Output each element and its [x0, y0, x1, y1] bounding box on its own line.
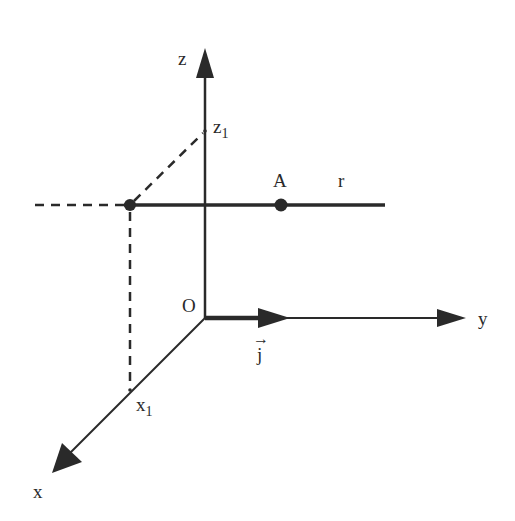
- dashed-line-to-z1: [134, 133, 203, 201]
- line-r-label: r: [338, 170, 345, 191]
- x-axis: [52, 318, 205, 473]
- y-axis-label: y: [478, 308, 488, 329]
- point-a-label: A: [273, 170, 287, 191]
- x-axis-label: x: [33, 481, 43, 502]
- j-unit-vector: [205, 308, 290, 328]
- y-axis-arrowhead-icon: [437, 309, 466, 327]
- z-axis-label: z: [178, 48, 186, 69]
- origin-label: O: [182, 295, 196, 316]
- dashed-projection-lines: [35, 133, 203, 388]
- x1-tick: [128, 388, 132, 392]
- projection-point: [124, 199, 136, 211]
- z-axis-arrowhead-icon: [196, 48, 214, 78]
- point-a: [275, 199, 288, 212]
- j-vector-label: j: [256, 344, 262, 365]
- j-vector-arrowhead-icon: [258, 308, 290, 328]
- z1-label: z1: [213, 116, 228, 141]
- coordinate-diagram: z z1 A r O y → j x1 x: [0, 0, 515, 521]
- z1-tick: [203, 129, 207, 133]
- z-axis: [196, 48, 214, 318]
- x-axis-arrowhead-icon: [52, 443, 82, 473]
- x1-label: x1: [136, 394, 153, 419]
